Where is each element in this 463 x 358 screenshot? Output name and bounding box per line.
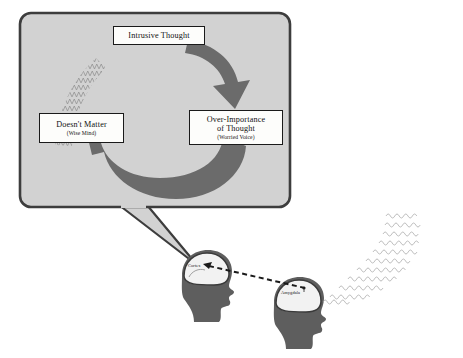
squiggle-into-amygdala [323,214,420,304]
diagram-scene [0,0,463,358]
box-doesnt-matter: Doesn't Matter (Wise Mind) [39,113,124,143]
box-intrusive-thought-label: Intrusive Thought [128,31,189,40]
head-cortex-shape [182,250,234,322]
label-amygdala: Amygdala [281,290,300,295]
diagram-canvas: Intrusive Thought Over-Importance of Tho… [0,0,463,358]
box-over-importance-line2: of Thought [217,124,255,133]
bubble-tail-seam [121,200,146,208]
box-over-importance-subtitle: (Worried Voice) [217,134,254,140]
box-intrusive-thought: Intrusive Thought [113,26,205,45]
box-over-importance-line1: Over-Importance [207,115,265,124]
box-doesnt-matter-label: Doesn't Matter [56,120,107,129]
bubble-tail [119,205,197,265]
label-cortex: Cortex [188,263,201,268]
box-over-importance: Over-Importance of Thought (Worried Voic… [189,110,283,145]
head-amygdala-shape [274,277,326,349]
box-doesnt-matter-subtitle: (Wise Mind) [67,130,97,136]
